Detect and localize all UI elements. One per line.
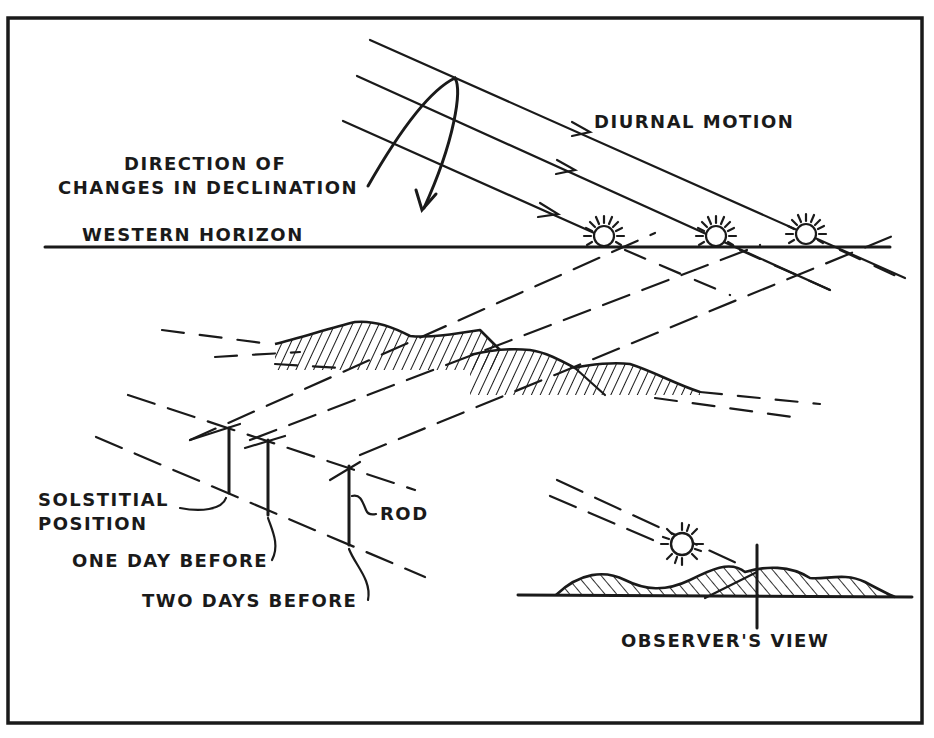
diagram-canvas: DIURNAL MOTION DIRECTION OF CHANGES IN D… [0,0,934,738]
direction-label-line2: CHANGES IN DECLINATION [58,177,358,198]
two-days-before-label: TWO DAYS BEFORE [142,590,357,611]
solstitial-label-line1: SOLSTITIAL [38,489,169,510]
diurnal-motion-label: DIURNAL MOTION [594,111,794,132]
sun-icon [661,523,703,565]
one-day-before-label: ONE DAY BEFORE [72,550,268,571]
western-horizon-label: WESTERN HORIZON [82,224,304,245]
declination-arrow [368,78,457,210]
sun-icon [696,216,736,246]
solstitial-label-line2: POSITION [38,513,148,534]
rod [190,424,240,493]
solstitial-callout [180,498,226,510]
sun-icon [584,216,624,246]
rod-callout [352,496,376,515]
observer-view [518,480,912,628]
one-day-callout [268,518,275,560]
distant-hills [162,322,820,418]
diurnal-paths [343,40,905,290]
rod [330,462,360,545]
rod-label: ROD [380,503,429,524]
direction-label-line1: DIRECTION OF [124,153,286,174]
observers-view-label: OBSERVER'S VIEW [621,630,829,651]
